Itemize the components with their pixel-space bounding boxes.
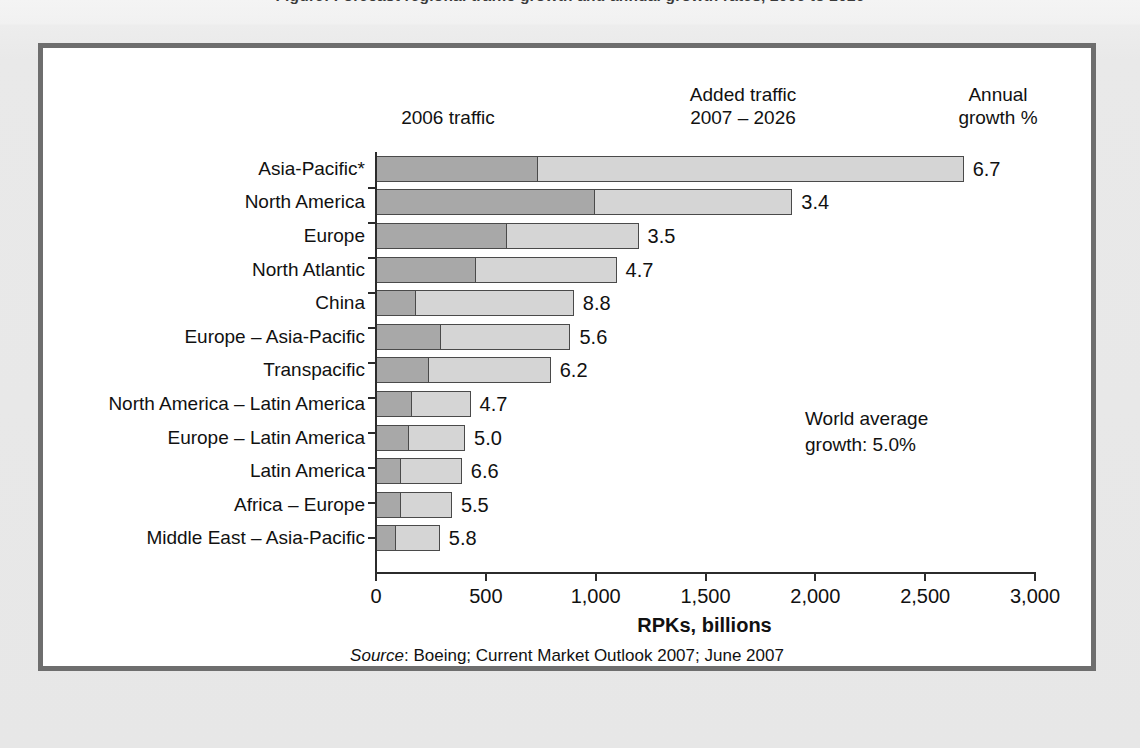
y-axis-tick [368,292,376,294]
category-label: Latin America [250,460,375,482]
bar-segment-added-traffic [409,425,465,451]
category-label: Africa – Europe [234,494,375,516]
growth-value-label: 4.7 [480,391,508,417]
x-axis-tick [705,572,707,581]
bar-segment-added-traffic [538,156,964,182]
x-axis-tick-label: 2,500 [900,584,950,608]
x-axis-tick-label: 0 [370,584,381,608]
figure-panel: 2006 traffic Added traffic 2007 – 2026 A… [38,43,1096,671]
growth-value-label: 3.5 [648,223,676,249]
chart-row: North America – Latin America4.7 [43,387,1091,421]
x-axis-tick-label: 1,000 [571,584,621,608]
category-label: Europe [304,225,375,247]
bar-segment-added-traffic [476,257,617,283]
stacked-bar: 5.5 [375,492,489,518]
stacked-bar: 4.7 [375,391,507,417]
chart-row: Asia-Pacific*6.7 [43,152,1091,186]
bar-segment-added-traffic [396,525,440,551]
y-axis-tick [368,327,376,329]
bar-segment-base-traffic [375,257,476,283]
bar-segment-added-traffic [412,391,470,417]
chart-area: 2006 traffic Added traffic 2007 – 2026 A… [43,48,1091,666]
column-header-annual-growth-line1: Annual [913,83,1083,106]
x-axis-tick [814,572,816,581]
y-axis-tick [368,362,376,364]
y-axis-tick [368,222,376,224]
x-axis-tick-label: 3,000 [1010,584,1060,608]
chart-row: Europe – Latin America5.0 [43,421,1091,455]
growth-value-label: 5.8 [449,525,477,551]
chart-row: North America3.4 [43,186,1091,220]
cut-off-figure-caption: Figure: Forecast regional traffic growth… [0,0,1140,13]
growth-value-label: 6.6 [471,458,499,484]
category-label: Middle East – Asia-Pacific [146,527,375,549]
column-header-added-traffic: Added traffic 2007 – 2026 [633,83,853,129]
bar-segment-base-traffic [375,492,401,518]
x-axis-tick [595,572,597,581]
stacked-bar: 3.4 [375,189,829,215]
y-axis-tick [368,467,376,469]
bar-segment-base-traffic [375,357,429,383]
category-label: North Atlantic [252,259,375,281]
stacked-bar: 5.0 [375,425,502,451]
chart-row: Latin America6.6 [43,454,1091,488]
chart-row: Transpacific6.2 [43,354,1091,388]
y-axis-tick [368,257,376,259]
growth-value-label: 6.7 [973,156,1001,182]
chart-row: Europe – Asia-Pacific5.6 [43,320,1091,354]
column-header-annual-growth-line2: growth % [913,106,1083,129]
growth-value-label: 5.5 [461,492,489,518]
growth-value-label: 8.8 [583,290,611,316]
bar-segment-base-traffic [375,189,595,215]
category-label: Europe – Asia-Pacific [184,326,375,348]
source-note: Source: Boeing; Current Market Outlook 2… [43,646,1091,666]
category-label: North America [245,191,375,213]
chart-row: Europe3.5 [43,219,1091,253]
category-label: Asia-Pacific* [258,158,375,180]
x-axis-tick [485,572,487,581]
stacked-bar: 4.7 [375,257,653,283]
y-axis-tick [368,432,376,434]
bar-segment-base-traffic [375,458,401,484]
x-axis-tick-label: 500 [469,584,502,608]
cut-off-caption-text: Figure: Forecast regional traffic growth… [0,0,1140,5]
category-label: Transpacific [263,359,375,381]
bar-segment-added-traffic [595,189,793,215]
bar-segment-added-traffic [401,458,461,484]
source-text: : Boeing; Current Market Outlook 2007; J… [404,646,784,665]
stacked-bar: 6.2 [375,357,588,383]
x-axis-tick-label: 2,000 [790,584,840,608]
x-axis-tick [375,572,377,581]
bar-segment-base-traffic [375,290,416,316]
growth-value-label: 5.6 [579,324,607,350]
bar-segment-base-traffic [375,156,538,182]
category-label: North America – Latin America [108,393,375,415]
column-header-added-traffic-line2: 2007 – 2026 [633,106,853,129]
growth-value-label: 5.0 [474,425,502,451]
stacked-bar: 8.8 [375,290,611,316]
growth-value-label: 3.4 [801,189,829,215]
stacked-bar: 5.8 [375,525,477,551]
category-label: China [315,292,375,314]
bar-segment-added-traffic [441,324,571,350]
y-axis-tick [368,502,376,504]
bar-segment-base-traffic [375,425,409,451]
x-axis-tick [1034,572,1036,581]
column-header-added-traffic-line1: Added traffic [633,83,853,106]
x-axis-tick [924,572,926,581]
x-axis-title: RPKs, billions [375,614,1034,637]
y-axis-tick [368,397,376,399]
bar-segment-added-traffic [416,290,574,316]
chart-row: Middle East – Asia-Pacific5.8 [43,522,1091,556]
bar-segment-added-traffic [401,492,452,518]
y-axis-tick [368,187,376,189]
stacked-bar: 3.5 [375,223,675,249]
bar-segment-added-traffic [507,223,639,249]
growth-value-label: 4.7 [626,257,654,283]
growth-value-label: 6.2 [560,357,588,383]
plot-rows: Asia-Pacific*6.7North America3.4Europe3.… [43,152,1091,572]
column-header-2006-traffic: 2006 traffic [353,106,543,129]
stacked-bar: 6.7 [375,156,1001,182]
column-header-annual-growth: Annual growth % [913,83,1083,129]
stacked-bar: 5.6 [375,324,607,350]
